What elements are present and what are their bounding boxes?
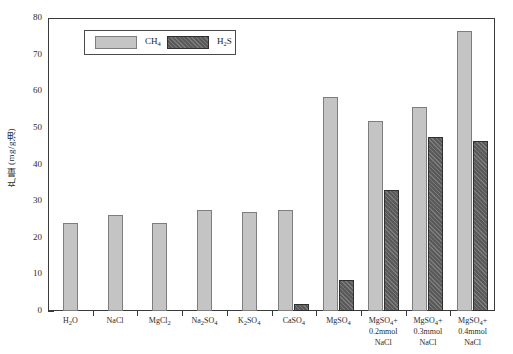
bar-ch4	[278, 210, 293, 311]
y-tick-label: 60	[14, 85, 42, 95]
bar-chart: 产量 (mg/g油) 01020304050607080 H2ONaClMgCl…	[0, 0, 513, 354]
bar-group	[93, 18, 138, 311]
bar-group	[227, 18, 272, 311]
y-tick-label: 80	[14, 12, 42, 22]
bar-group	[406, 18, 451, 311]
bar-h2s	[384, 190, 399, 311]
bar-group	[137, 18, 182, 311]
y-tick-label: 20	[14, 232, 42, 242]
bar-ch4	[412, 107, 427, 311]
bar-ch4	[63, 223, 78, 311]
bar-group	[182, 18, 227, 311]
bar-group	[272, 18, 317, 311]
y-axis-title: 产量 (mg/g油)	[2, 128, 20, 187]
bar-ch4	[368, 121, 383, 311]
legend-swatch-h2s	[167, 36, 209, 49]
y-tick-label: 50	[14, 122, 42, 132]
bar-h2s	[473, 141, 488, 311]
bar-ch4	[457, 31, 472, 311]
y-tick-label: 30	[14, 195, 42, 205]
legend-label-h2s: H2S	[217, 36, 232, 46]
bar-group	[48, 18, 93, 311]
bar-group	[316, 18, 361, 311]
bar-h2s	[428, 137, 443, 311]
y-tick-label: 10	[14, 268, 42, 278]
bar-ch4	[197, 210, 212, 311]
bar-h2s	[294, 304, 309, 311]
x-axis-label: MgSO4+0.4mmolNaCl	[446, 315, 499, 348]
bar-h2s	[339, 280, 354, 311]
bar-group	[361, 18, 406, 311]
y-tick-label: 70	[14, 49, 42, 59]
bar-ch4	[108, 215, 123, 311]
bars-layer	[48, 18, 495, 311]
chart-legend: CH4 H2S	[84, 30, 236, 55]
bar-group	[450, 18, 495, 311]
legend-label-ch4: CH4	[145, 36, 161, 46]
legend-swatch-ch4	[95, 36, 137, 49]
y-tick-label: 40	[14, 159, 42, 169]
bar-ch4	[152, 223, 167, 311]
bar-ch4	[242, 212, 257, 311]
bar-ch4	[323, 97, 338, 311]
y-tick-label: 0	[14, 305, 42, 315]
